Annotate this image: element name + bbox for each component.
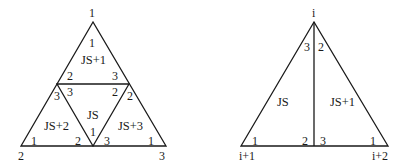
right-diagram: i i+1 i+2 JS 3 1 2 JS+1 2 3 1 [239, 6, 388, 163]
right-vertex-bottom-right-label: i+2 [372, 149, 388, 163]
corner-label: 1 [31, 134, 37, 148]
left-diagram: 1 2 3 JS+1 1 2 3 JS 3 2 1 JS+2 3 1 2 JS+… [18, 6, 166, 163]
element-label-js: JS [87, 108, 99, 122]
element-label-js-plus-3: JS+3 [118, 119, 143, 133]
left-vertex-bottom-left-label: 2 [18, 149, 24, 163]
left-vertex-top-label: 1 [89, 6, 95, 20]
corner-label: 1 [89, 36, 95, 50]
corner-label: 1 [252, 134, 258, 148]
corner-label: 2 [67, 69, 73, 83]
corner-label: 2 [75, 134, 81, 148]
element-label-js: JS [277, 95, 289, 109]
corner-label: 3 [104, 134, 110, 148]
left-vertex-bottom-right-label: 3 [159, 149, 165, 163]
corner-label: 1 [148, 134, 154, 148]
element-label-js-plus-1: JS+1 [330, 95, 355, 109]
corner-label: 2 [127, 89, 133, 103]
right-vertex-top-label: i [312, 6, 316, 20]
corner-label: 2 [318, 40, 324, 54]
right-vertex-bottom-left-label: i+1 [239, 149, 255, 163]
triangle-subdivision-diagram: 1 2 3 JS+1 1 2 3 JS 3 2 1 JS+2 3 1 2 JS+… [0, 0, 406, 168]
corner-label: 3 [112, 69, 118, 83]
corner-label: 2 [112, 85, 118, 99]
corner-label: 1 [90, 125, 96, 139]
corner-label: 3 [54, 89, 60, 103]
corner-label: 3 [304, 40, 310, 54]
corner-label: 2 [302, 134, 308, 148]
corner-label: 3 [67, 85, 73, 99]
element-label-js-plus-2: JS+2 [44, 119, 69, 133]
element-label-js-plus-1: JS+1 [81, 53, 106, 67]
corner-label: 1 [370, 134, 376, 148]
corner-label: 3 [320, 134, 326, 148]
